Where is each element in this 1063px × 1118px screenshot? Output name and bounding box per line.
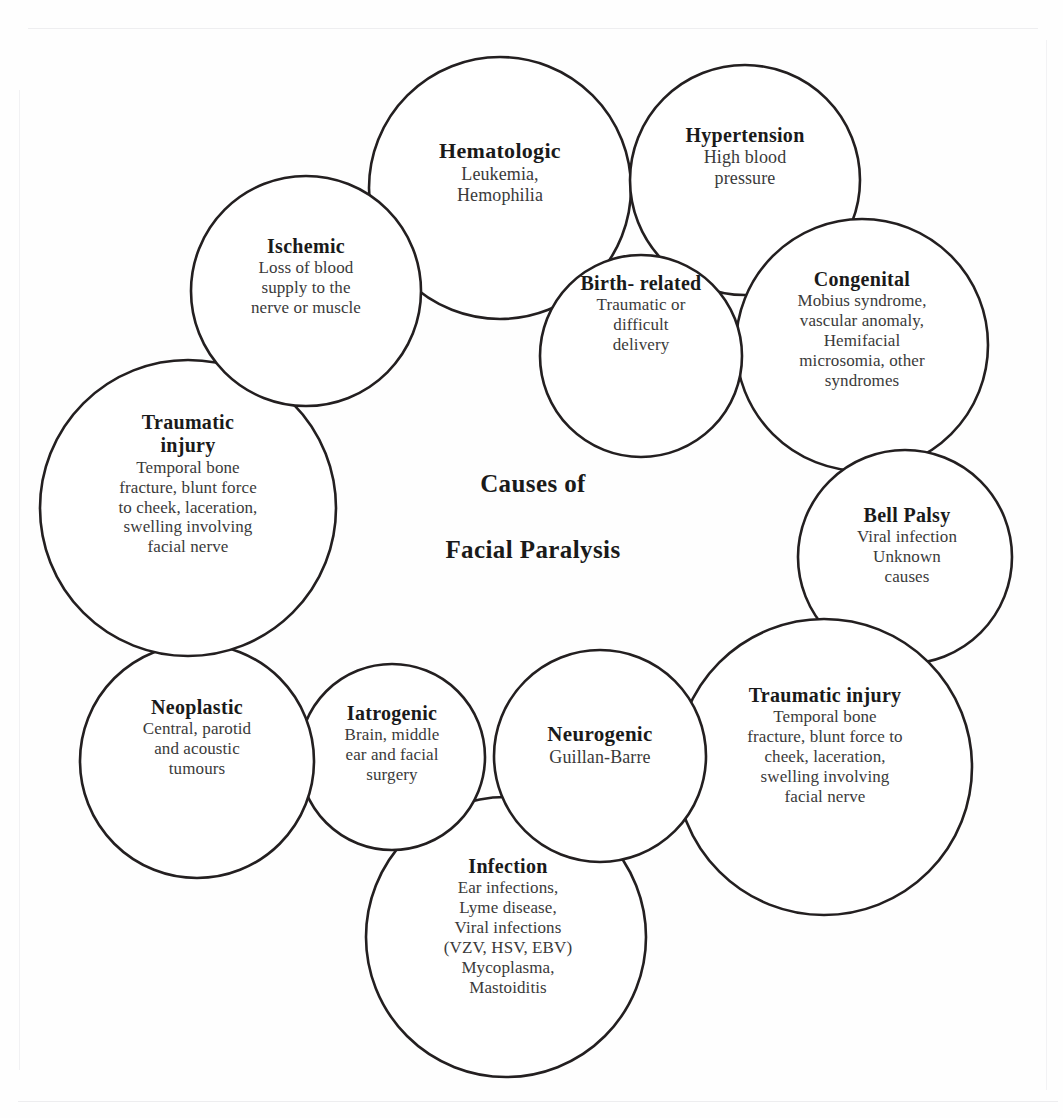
node-infection[interactable]: Infection Ear infections, Lyme disease, … <box>396 855 620 998</box>
node-hypertension-body: High blood pressure <box>650 147 840 189</box>
node-birth-related-body: Traumatic or difficult delivery <box>561 295 721 355</box>
node-traumatic-injury-right[interactable]: Traumatic injury Temporal bone fracture,… <box>694 684 956 807</box>
facial-paralysis-diagram: Hematologic Leukemia, Hemophilia Hyperte… <box>0 0 1063 1118</box>
node-congenital[interactable]: Congenital Mobius syndrome, vascular ano… <box>752 268 972 391</box>
node-iatrogenic-title: Iatrogenic <box>308 702 476 725</box>
node-infection-body: Ear infections, Lyme disease, Viral infe… <box>396 878 620 997</box>
node-birth-related-title: Birth- related <box>561 272 721 295</box>
center-title-line-1: Causes of <box>403 470 663 498</box>
node-neurogenic-title: Neurogenic <box>505 722 695 747</box>
node-hematologic-body: Leukemia, Hemophilia <box>390 164 610 206</box>
node-iatrogenic-body: Brain, middle ear and facial surgery <box>308 725 476 785</box>
node-hematologic-title: Hematologic <box>390 138 610 164</box>
node-infection-title: Infection <box>396 855 620 878</box>
node-neoplastic-body: Central, parotid and acoustic tumours <box>95 719 299 779</box>
node-ischemic-body: Loss of blood supply to the nerve or mus… <box>206 258 406 318</box>
node-bell-palsy[interactable]: Bell Palsy Viral infection Unknown cause… <box>812 504 1002 587</box>
node-traumatic-injury-left[interactable]: Traumatic injury Temporal bone fracture,… <box>60 411 316 557</box>
node-traumatic-injury-left-title: Traumatic injury <box>60 411 316 458</box>
node-iatrogenic[interactable]: Iatrogenic Brain, middle ear and facial … <box>308 702 476 785</box>
node-ischemic-title: Ischemic <box>206 235 406 258</box>
node-hypertension[interactable]: Hypertension High blood pressure <box>650 124 840 189</box>
node-hematologic[interactable]: Hematologic Leukemia, Hemophilia <box>390 138 610 206</box>
node-bell-palsy-body: Viral infection Unknown causes <box>812 527 1002 587</box>
node-neurogenic-body: Guillan-Barre <box>505 747 695 768</box>
node-neurogenic[interactable]: Neurogenic Guillan-Barre <box>505 722 695 768</box>
diagram-center-title: Causes of Facial Paralysis <box>403 470 663 564</box>
node-congenital-title: Congenital <box>752 268 972 291</box>
node-ischemic[interactable]: Ischemic Loss of blood supply to the ner… <box>206 235 406 318</box>
node-neoplastic[interactable]: Neoplastic Central, parotid and acoustic… <box>95 696 299 779</box>
node-traumatic-injury-right-title: Traumatic injury <box>694 684 956 707</box>
node-traumatic-injury-right-body: Temporal bone fracture, blunt force to c… <box>694 707 956 806</box>
node-hypertension-title: Hypertension <box>650 124 840 147</box>
node-birth-related[interactable]: Birth- related Traumatic or difficult de… <box>561 272 721 355</box>
node-traumatic-injury-left-body: Temporal bone fracture, blunt force to c… <box>60 458 316 557</box>
node-bell-palsy-title: Bell Palsy <box>812 504 1002 527</box>
node-neoplastic-title: Neoplastic <box>95 696 299 719</box>
center-title-line-2: Facial Paralysis <box>403 536 663 564</box>
node-congenital-body: Mobius syndrome, vascular anomaly, Hemif… <box>752 291 972 390</box>
